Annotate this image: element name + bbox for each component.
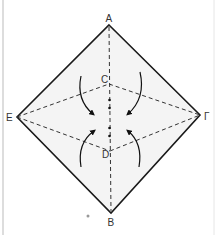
label-B: B [108,217,115,228]
fold-diagram: A B E Γ C D [0,0,218,235]
label-E: E [6,112,13,123]
label-C: C [101,74,108,85]
label-A: A [106,13,113,24]
label-D: D [102,149,109,160]
label-Gamma: Γ [204,111,210,122]
stray-mark [87,215,90,218]
paper-square [17,25,200,213]
